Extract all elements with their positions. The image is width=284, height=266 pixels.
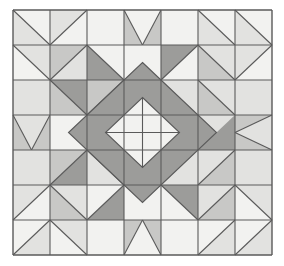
quilt-diagram (0, 0, 284, 266)
cell-r1c5 (161, 10, 198, 45)
cell-r5c7 (235, 150, 272, 185)
cell-r3c7 (235, 80, 272, 115)
cell-r1c3 (87, 10, 124, 45)
cell-r7c5 (161, 220, 198, 255)
cell-r5c1 (13, 150, 50, 185)
cell-r7c3 (87, 220, 124, 255)
quilt-page (0, 0, 284, 266)
cell-r3c1 (13, 80, 50, 115)
